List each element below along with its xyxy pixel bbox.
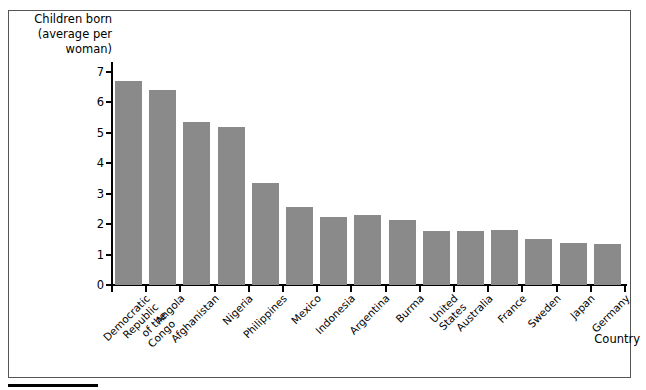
bar[interactable]: [423, 231, 450, 285]
bar[interactable]: [594, 244, 621, 285]
bar[interactable]: [218, 127, 245, 285]
y-axis-title: Children born (average per woman): [8, 12, 112, 57]
x-tick-mark: [556, 285, 558, 292]
y-tick-label: 7: [97, 65, 112, 79]
x-tick-mark: [590, 285, 592, 292]
x-tick-mark: [145, 285, 147, 292]
x-tick-mark: [624, 285, 626, 292]
plot-area: 01234567: [112, 66, 625, 285]
x-tick-mark: [350, 285, 352, 292]
bar[interactable]: [354, 215, 381, 285]
bar[interactable]: [183, 122, 210, 285]
bar[interactable]: [525, 239, 552, 285]
x-tick-mark: [385, 285, 387, 292]
bar[interactable]: [320, 217, 347, 285]
x-tick-mark: [111, 285, 113, 292]
x-tick-mark: [282, 285, 284, 292]
bar[interactable]: [115, 81, 142, 285]
x-axis-title: Country: [594, 332, 640, 346]
y-tick-label: 3: [97, 187, 112, 201]
bar[interactable]: [491, 230, 518, 285]
y-tick-label: 6: [97, 95, 112, 109]
x-tick-mark: [248, 285, 250, 292]
x-tick-mark: [316, 285, 318, 292]
x-tick-mark: [487, 285, 489, 292]
bar[interactable]: [286, 207, 313, 285]
y-tick-label: 0: [97, 278, 112, 292]
y-tick-label: 4: [97, 156, 112, 170]
x-tick-mark: [214, 285, 216, 292]
bottom-rule: [8, 384, 98, 387]
y-tick-label: 1: [97, 248, 112, 262]
x-tick-mark: [521, 285, 523, 292]
y-tick-label: 2: [97, 217, 112, 231]
x-tick-mark: [453, 285, 455, 292]
bar[interactable]: [457, 231, 484, 285]
x-tick-mark: [179, 285, 181, 292]
y-tick-label: 5: [97, 126, 112, 140]
x-tick-mark: [419, 285, 421, 292]
bar[interactable]: [389, 220, 416, 285]
bar[interactable]: [149, 90, 176, 285]
bar[interactable]: [252, 183, 279, 285]
bar[interactable]: [560, 243, 587, 285]
